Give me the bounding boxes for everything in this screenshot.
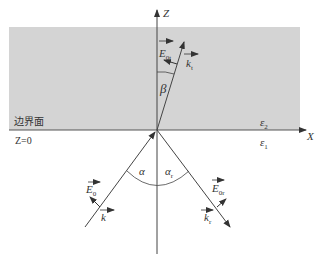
k-incident-label: k bbox=[101, 212, 106, 223]
medium-2-region bbox=[9, 27, 300, 130]
reflection-refraction-diagram bbox=[0, 0, 322, 262]
z0-label: Z=0 bbox=[15, 136, 32, 146]
alpha-label: α bbox=[139, 166, 145, 177]
alpha-angle-arc bbox=[127, 171, 189, 186]
epsilon-2-label: ε2 bbox=[260, 117, 268, 131]
z-axis-label: Z bbox=[163, 8, 169, 19]
e-reflected-vector bbox=[217, 199, 226, 207]
x-axis-label: X bbox=[307, 131, 314, 142]
beta-label: β bbox=[160, 82, 166, 95]
incident-ray bbox=[85, 132, 155, 227]
e-reflected-label: E0r bbox=[212, 183, 225, 197]
e-transmitted-label: E0t bbox=[159, 48, 171, 62]
epsilon-1-label: ε1 bbox=[260, 137, 268, 151]
k-reflected-label: kr bbox=[204, 212, 211, 226]
e-incident-label: E0 bbox=[86, 184, 96, 198]
e-incident-vector bbox=[90, 197, 100, 207]
k-transmitted-label: kt bbox=[186, 58, 193, 72]
boundary-label: 边界面 bbox=[14, 117, 44, 127]
alpha-r-label: αr bbox=[165, 166, 173, 180]
